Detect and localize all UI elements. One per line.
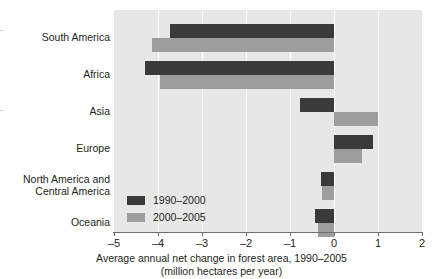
x-tick-label-1: 1: [363, 237, 393, 249]
x-axis-title-line1: Average annual net change in forest area…: [0, 252, 443, 265]
bar-north-central-america-2000-2005: [322, 186, 334, 200]
x-tick-label--2: –2: [231, 237, 261, 249]
bar-africa-2000-2005: [160, 75, 334, 89]
x-tick-label--1: –1: [275, 237, 305, 249]
x-axis-title-line2: (million hectares per year): [0, 265, 443, 278]
chart-figure: South America Africa Asia Europe North A…: [0, 0, 443, 279]
x-axis-title: Average annual net change in forest area…: [0, 252, 443, 278]
legend-item-2000-2005: 2000–2005: [127, 210, 237, 224]
x-tick-label--5: –5: [99, 237, 129, 249]
legend-label: 1990–2000: [153, 194, 206, 206]
bar-asia-2000-2005: [334, 112, 378, 126]
x-tick-label--4: –4: [143, 237, 173, 249]
x-tick-label--3: –3: [187, 237, 217, 249]
x-tick-0: [334, 232, 335, 236]
bar-europe-2000-2005: [334, 149, 362, 163]
bar-europe-1990-2000: [334, 135, 373, 149]
category-label-south-america: South America: [0, 32, 110, 44]
bar-asia-1990-2000: [300, 98, 334, 112]
bar-south-america-1990-2000: [170, 24, 334, 38]
bar-oceania-1990-2000: [315, 209, 334, 223]
x-tick-2: [422, 232, 423, 236]
category-label-asia: Asia: [0, 106, 110, 118]
x-axis-line: [113, 232, 423, 233]
gridline-1: [378, 10, 379, 232]
legend-swatch-icon: [127, 213, 145, 222]
category-label-africa: Africa: [0, 69, 110, 81]
x-tick--1: [290, 232, 291, 236]
x-tick--4: [158, 232, 159, 236]
bar-north-central-america-1990-2000: [321, 172, 334, 186]
category-label-north-central-america: North America and Central America: [0, 174, 110, 197]
x-tick-label-0: 0: [319, 237, 349, 249]
bar-oceania-2000-2005: [318, 223, 334, 237]
category-label-europe: Europe: [0, 143, 110, 155]
bar-africa-1990-2000: [145, 61, 334, 75]
legend-item-1990-2000: 1990–2000: [127, 193, 237, 207]
category-axis-labels: South America Africa Asia Europe North A…: [0, 10, 110, 232]
plot-area: 1990–2000 2000–2005: [114, 10, 422, 232]
x-tick-1: [378, 232, 379, 236]
legend-swatch-icon: [127, 196, 145, 205]
chart-legend: 1990–2000 2000–2005: [127, 193, 237, 227]
x-tick--3: [202, 232, 203, 236]
legend-label: 2000–2005: [153, 211, 206, 223]
x-tick-label-2: 2: [407, 237, 437, 249]
category-label-oceania: Oceania: [0, 217, 110, 229]
bar-south-america-2000-2005: [152, 38, 334, 52]
x-tick--2: [246, 232, 247, 236]
x-tick--5: [114, 232, 115, 236]
